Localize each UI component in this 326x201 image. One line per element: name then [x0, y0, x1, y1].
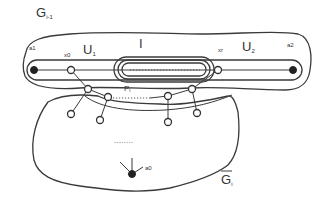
graph-diagram: Gi-1 a1 x0 U1 I xr U2 a2 Pi ........ a0 … — [0, 0, 326, 201]
label-dots: ........ — [114, 137, 134, 144]
label-g-bar: Gi — [221, 171, 232, 187]
node — [85, 86, 92, 93]
node-xr — [215, 67, 222, 74]
node — [97, 117, 104, 124]
label-u2: U2 — [242, 39, 255, 54]
label-xr: xr — [218, 47, 223, 53]
edge — [71, 89, 88, 114]
node-a0 — [129, 171, 136, 178]
node — [68, 111, 75, 118]
node-a1 — [31, 67, 38, 74]
node — [189, 86, 196, 93]
node — [194, 110, 201, 117]
upper-region-outline — [23, 32, 311, 90]
node-x0 — [68, 67, 75, 74]
label-pi: Pi — [124, 84, 130, 93]
label-i: I — [139, 36, 143, 51]
node — [165, 119, 172, 126]
label-g-prev: Gi-1 — [36, 5, 53, 20]
node — [105, 94, 112, 101]
label-a1: a1 — [29, 45, 36, 51]
label-x0: x0 — [64, 52, 71, 58]
node-a2 — [290, 67, 297, 74]
label-a0: a0 — [145, 165, 152, 171]
node — [165, 93, 172, 100]
svg-text:Gi: Gi — [221, 172, 232, 187]
label-u1: U1 — [83, 42, 96, 57]
lower-region-outline — [33, 95, 239, 191]
label-a2: a2 — [287, 42, 294, 48]
